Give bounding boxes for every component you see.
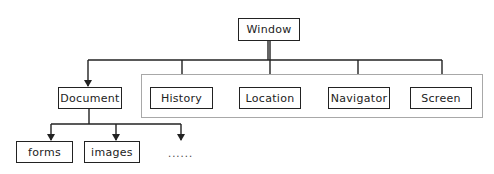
node-images: images	[84, 141, 140, 163]
node-label: Screen	[421, 92, 461, 105]
node-document: Document	[58, 87, 122, 109]
node-label: forms	[28, 146, 61, 159]
node-label: Location	[246, 92, 295, 105]
node-forms: forms	[16, 141, 73, 163]
node-label: Navigator	[331, 92, 388, 105]
node-label: History	[161, 92, 202, 105]
node-label: images	[91, 146, 133, 159]
node-label: Window	[246, 23, 291, 36]
node-screen: Screen	[410, 87, 472, 109]
node-navigator: Navigator	[328, 87, 390, 109]
node-history: History	[150, 87, 213, 109]
node-more-ellipsis: ......	[168, 148, 193, 159]
node-label: Document	[60, 92, 119, 105]
node-window: Window	[238, 18, 300, 41]
node-location: Location	[239, 87, 301, 109]
